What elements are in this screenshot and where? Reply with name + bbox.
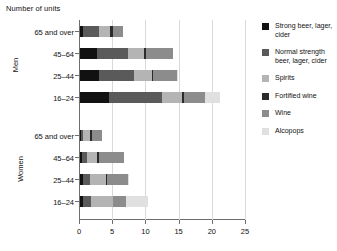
legend-label: Spirits — [275, 74, 294, 83]
y-tick — [75, 31, 79, 32]
legend-swatch — [262, 128, 269, 135]
bar-men-65-and-over — [80, 26, 123, 37]
chart-legend: Strong beer, lager, ciderNormal strength… — [262, 22, 337, 144]
legend-item[interactable]: Wine — [262, 109, 337, 118]
chart-axis-title: Number of units — [6, 4, 60, 13]
y-tick — [75, 135, 79, 136]
category-label: 25–44 — [53, 72, 74, 81]
x-tick-label: 25 — [241, 227, 249, 236]
legend-label: Normal strength beer, lager, cider — [275, 48, 337, 65]
category-label: 16–24 — [53, 198, 74, 207]
bar-segment — [205, 92, 220, 103]
bar-segment — [113, 26, 124, 37]
legend-swatch — [262, 93, 269, 100]
bar-segment — [92, 130, 102, 141]
bar-segment — [83, 130, 90, 141]
category-label: 16–24 — [53, 94, 74, 103]
bar-segment — [107, 174, 128, 185]
bar-segment — [184, 92, 205, 103]
bar-segment — [126, 196, 148, 207]
x-tick — [245, 220, 246, 224]
category-label: 65 and over — [34, 132, 74, 141]
bar-segment — [99, 26, 110, 37]
x-tick — [145, 220, 146, 224]
x-tick-label: 15 — [174, 227, 182, 236]
bar-segment — [113, 196, 126, 207]
x-tick — [79, 220, 80, 224]
bar-segment — [80, 70, 99, 81]
bar-segment — [153, 70, 177, 81]
legend-item[interactable]: Fortified wine — [262, 92, 337, 101]
legend-item[interactable]: Alcopops — [262, 127, 337, 136]
x-tick-label: 5 — [110, 227, 114, 236]
category-label: 65 and over — [34, 28, 74, 37]
bar-segment — [83, 26, 98, 37]
gridline — [179, 20, 180, 220]
legend-swatch — [262, 75, 269, 82]
bar-segment — [80, 92, 109, 103]
x-tick — [179, 220, 180, 224]
y-tick — [75, 201, 79, 202]
y-tick — [75, 75, 79, 76]
bar-men-45–64 — [80, 48, 173, 59]
bar-segment — [99, 70, 135, 81]
category-label: 45–64 — [53, 50, 74, 59]
legend-label: Alcopops — [275, 127, 304, 136]
bar-segment — [99, 152, 124, 163]
bar-men-25–44 — [80, 70, 178, 81]
bar-segment — [109, 92, 162, 103]
legend-label: Strong beer, lager, cider — [275, 22, 337, 39]
y-tick — [75, 53, 79, 54]
bar-segment — [80, 48, 97, 59]
stacked-bar-chart: Number of units 0510152025 65 and over45… — [0, 0, 337, 251]
bar-segment — [162, 92, 182, 103]
x-tick-label: 20 — [208, 227, 216, 236]
y-tick — [75, 157, 79, 158]
y-tick — [75, 179, 79, 180]
bar-women-25–44 — [80, 174, 129, 185]
x-tick — [212, 220, 213, 224]
bar-men-16–24 — [80, 92, 220, 103]
bar-segment — [90, 174, 106, 185]
category-label: 45–64 — [53, 154, 74, 163]
bar-segment — [177, 70, 178, 81]
x-tick-label: 10 — [141, 227, 149, 236]
bar-women-16–24 — [80, 196, 148, 207]
plot-area: 0510152025 — [79, 20, 245, 220]
bar-segment — [146, 48, 173, 59]
bar-segment — [128, 48, 144, 59]
bar-women-65-and-over — [80, 130, 102, 141]
legend-item[interactable]: Normal strength beer, lager, cider — [262, 48, 337, 65]
bar-segment — [97, 48, 128, 59]
legend-swatch — [262, 49, 269, 56]
group-label-men: Men — [11, 57, 20, 72]
gridline — [245, 20, 246, 220]
bar-segment — [87, 152, 98, 163]
legend-label: Fortified wine — [275, 92, 317, 101]
legend-swatch — [262, 110, 269, 117]
legend-label: Wine — [275, 109, 291, 118]
group-label-women: Women — [16, 156, 25, 182]
x-axis-line — [79, 219, 245, 220]
bar-segment — [91, 196, 112, 207]
x-tick — [112, 220, 113, 224]
legend-item[interactable]: Spirits — [262, 74, 337, 83]
bar-segment — [83, 196, 91, 207]
gridline — [212, 20, 213, 220]
legend-swatch — [262, 23, 269, 30]
legend-item[interactable]: Strong beer, lager, cider — [262, 22, 337, 39]
category-label: 25–44 — [53, 176, 74, 185]
bar-segment — [83, 174, 90, 185]
bar-segment — [134, 70, 151, 81]
bar-women-45–64 — [80, 152, 124, 163]
y-tick — [75, 97, 79, 98]
x-tick-label: 0 — [77, 227, 81, 236]
bar-segment — [128, 174, 129, 185]
